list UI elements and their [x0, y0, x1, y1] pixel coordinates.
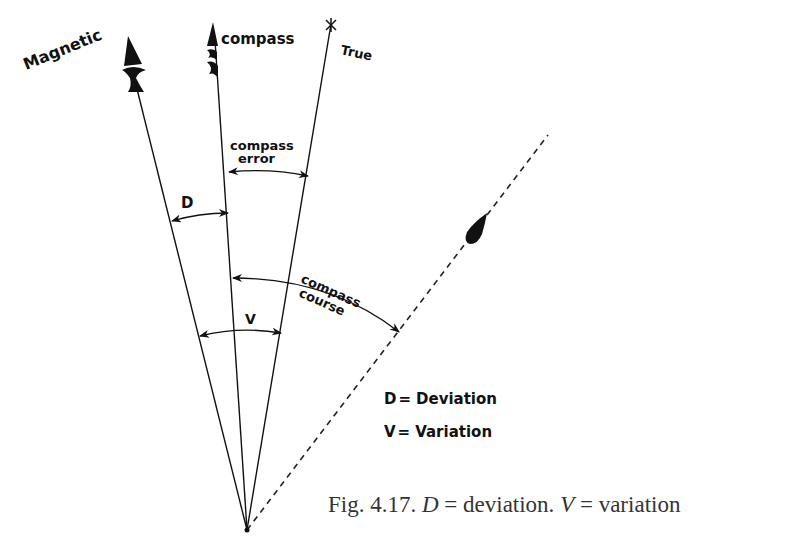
caption-v-text: = variation — [574, 492, 680, 517]
variation-label: V — [245, 311, 256, 327]
deviation-label: D — [181, 194, 193, 212]
magnetic-arrow-icon — [122, 36, 146, 92]
variation-arc: V — [200, 311, 281, 336]
magnetic-label: Magnetic — [20, 25, 104, 74]
star-icon — [326, 18, 336, 32]
compass-diagram: Magnetic compass True compass error D — [0, 0, 800, 556]
compass-label: compass — [221, 30, 295, 48]
true-label: True — [339, 42, 374, 63]
ship-icon — [466, 213, 487, 244]
compass-error-arc: compass error — [229, 138, 308, 176]
caption-prefix: Fig. 4.17. — [328, 492, 422, 517]
compass-error-label-2: error — [238, 151, 276, 166]
figure-caption: Fig. 4.17. D = deviation. V = variation — [328, 492, 680, 518]
caption-d-symbol: D — [422, 492, 439, 517]
caption-d-text: = deviation. — [439, 492, 561, 517]
legend: D=Deviation V=Variation — [384, 390, 497, 441]
compass-north-line: compass — [207, 22, 295, 530]
legend-variation: V=Variation — [384, 423, 492, 441]
caption-v-symbol: V — [560, 492, 574, 517]
magnetic-north-line: Magnetic — [20, 25, 247, 530]
legend-deviation: D=Deviation — [384, 390, 497, 408]
compass-course-arc: compass course — [233, 271, 399, 332]
ship-course-line — [247, 135, 548, 530]
deviation-arc: D — [172, 194, 228, 221]
origin-point — [245, 528, 250, 533]
